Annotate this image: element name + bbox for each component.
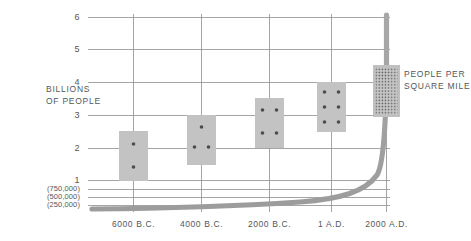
y-tick-6: 6 — [58, 12, 80, 22]
density-box-6000bc — [119, 131, 148, 181]
density-box-1ad — [317, 82, 346, 132]
density-box-2000bc — [255, 98, 284, 148]
y-axis-title-line2: OF PEOPLE — [46, 96, 101, 108]
population-growth-chart: BILLIONS OF PEOPLE 6 5 4 3 2 1 (750,000)… — [0, 0, 471, 241]
y-tick-2: 2 — [58, 143, 80, 153]
y-subtick-250000: (250,000) — [30, 200, 80, 209]
y-tick-3: 3 — [58, 110, 80, 120]
y-tick-5: 5 — [58, 44, 80, 54]
x-tick-2000-ad: 2000 A.D. — [352, 219, 421, 229]
x-tick-2000-bc: 2000 B.C. — [235, 219, 304, 229]
x-tick-6000-bc: 6000 B.C. — [99, 219, 168, 229]
density-box-4000bc — [187, 115, 216, 165]
density-box-2000ad — [373, 65, 400, 117]
right-label-line2: SQUARE MILE — [404, 81, 470, 93]
y-tick-4: 4 — [58, 77, 80, 87]
right-label-line1: PEOPLE PER — [404, 69, 470, 81]
x-tick-4000-bc: 4000 B.C. — [167, 219, 236, 229]
right-side-label: PEOPLE PER SQUARE MILE — [404, 69, 470, 92]
y-axis-title: BILLIONS OF PEOPLE — [46, 84, 101, 107]
